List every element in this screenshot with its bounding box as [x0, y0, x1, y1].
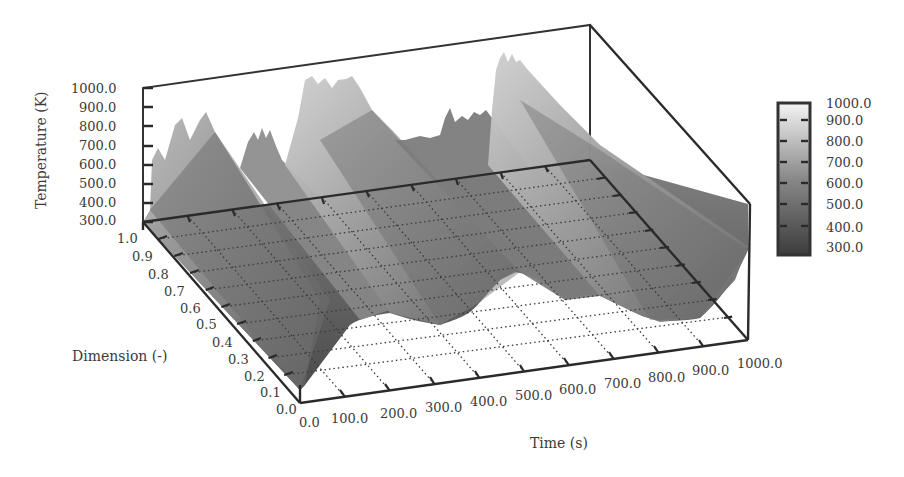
colorbar-tick-label: 600.0 — [826, 177, 863, 190]
colorbar-tick-label: 500.0 — [826, 198, 863, 211]
colorbar-tick-label: 900.0 — [826, 114, 863, 127]
z-tick-label: 800.0 — [79, 120, 116, 133]
z-tick-label: 500.0 — [79, 177, 116, 190]
time-tick-label: 800.0 — [648, 371, 685, 384]
time-tick-label: 1000.0 — [737, 357, 783, 370]
z-tick-label: 900.0 — [79, 101, 116, 114]
dimension-tick-label: 0.6 — [180, 302, 201, 315]
time-axis-title: Time (s) — [530, 436, 588, 450]
time-tick-label: 0.0 — [299, 416, 320, 429]
z-tick-label: 700.0 — [79, 139, 116, 152]
z-tick-label: 400.0 — [79, 196, 116, 209]
temperature-surface — [143, 52, 748, 390]
dimension-tick-label: 0.8 — [148, 268, 169, 281]
z-tick-label: 300.0 — [79, 214, 116, 227]
time-tick-label: 700.0 — [604, 377, 641, 390]
dimension-tick-label: 0.3 — [228, 353, 249, 366]
colorbar — [778, 103, 810, 255]
colorbar-tick-label: 800.0 — [826, 135, 863, 148]
dimension-axis-title: Dimension (-) — [72, 349, 168, 363]
dimension-tick-label: 0.5 — [196, 318, 217, 331]
time-tick-label: 600.0 — [559, 383, 596, 396]
dimension-tick-label: 1.0 — [117, 232, 138, 245]
dimension-tick-label: 0.1 — [260, 386, 281, 399]
z-axis-ticks — [143, 88, 153, 222]
z-tick-label: 600.0 — [79, 158, 116, 171]
dimension-tick-label: 0.7 — [164, 285, 185, 298]
colorbar-tick-label: 1000.0 — [826, 97, 872, 110]
z-axis-title: Temperature (K) — [34, 99, 48, 209]
colorbar-tick-label: 400.0 — [826, 221, 863, 234]
time-tick-label: 200.0 — [380, 407, 417, 420]
dimension-tick-label: 0.2 — [244, 370, 265, 383]
time-tick-label: 500.0 — [515, 389, 552, 402]
time-tick-label: 400.0 — [470, 395, 507, 408]
colorbar-tick-label: 300.0 — [826, 241, 863, 254]
dimension-tick-label: 0.0 — [276, 403, 297, 416]
colorbar-tick-label: 700.0 — [826, 156, 863, 169]
time-tick-label: 100.0 — [331, 412, 368, 425]
dimension-tick-label: 0.4 — [212, 336, 233, 349]
z-tick-label: 1000.0 — [71, 82, 117, 95]
time-tick-label: 300.0 — [425, 401, 462, 414]
dimension-tick-label: 0.9 — [132, 250, 153, 263]
time-tick-label: 900.0 — [692, 364, 729, 377]
